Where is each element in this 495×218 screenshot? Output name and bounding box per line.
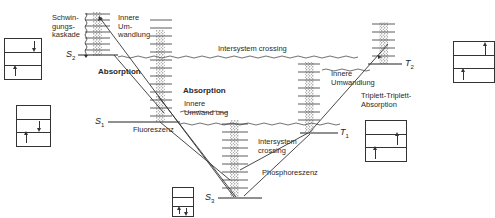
label-phosphoreszenz: Phosphoreszenz (262, 169, 318, 178)
label-intersystem-crossing-top: Intersystem crossing (218, 45, 287, 54)
state-label-s2: S2 (66, 49, 75, 61)
label-intersystem-crossing-t1: Intersystem crossing (258, 138, 297, 155)
state-label-t2: T2 (405, 58, 414, 70)
electron-up-arrow-icon (485, 45, 486, 55)
s1-stipple (156, 30, 165, 122)
electron-up-arrow-icon (397, 135, 398, 145)
t2-stipple (379, 22, 388, 64)
s0-stipple (230, 120, 239, 197)
t1-stipple (305, 62, 314, 132)
intersystem-crossing-top-wavy (118, 56, 358, 58)
orbital-box-s1 (16, 105, 51, 147)
label-schwingungskaskade: Schwin- gungs- kaskade (52, 14, 80, 40)
label-innere-umwandlung-t2: Innere Umwandlung (331, 70, 375, 87)
electron-down-arrow-icon (34, 41, 35, 49)
label-absorption-s1: Absorption (183, 87, 226, 96)
orbital-box-t1 (365, 120, 407, 162)
electron-up-arrow-icon (463, 71, 464, 80)
state-label-s1: S1 (95, 116, 104, 128)
electron-up-arrow-icon (26, 134, 27, 143)
orbital-box-s0 (172, 187, 194, 217)
label-triplett-absorption: Triplett-Triplett- Absorption (361, 92, 411, 109)
label-absorption-main: Absorption (98, 68, 141, 77)
orbital-box-t2 (453, 41, 495, 83)
orbital-box-s2 (4, 38, 42, 80)
state-label-t1: T1 (340, 127, 349, 139)
label-fluoreszenz: Fluoreszenz (133, 126, 174, 135)
label-innere-umwandlung-top: Innere Um- wandlung (118, 14, 150, 40)
label-innere-umwandlung-s1: Innere Umwand ung (184, 100, 228, 117)
electron-up-arrow-icon (15, 68, 16, 76)
jablonski-diagram: S2 S1 S3 T2 T1 Schwin- gungs- kaskade In… (0, 0, 495, 218)
electron-down-arrow-icon (39, 121, 40, 129)
electron-down-arrow-icon (186, 208, 187, 213)
electron-up-arrow-icon (375, 149, 376, 159)
electron-up-arrow-icon (179, 209, 180, 214)
state-label-s0: S3 (205, 192, 214, 204)
